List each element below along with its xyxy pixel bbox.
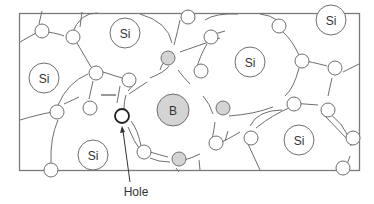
silicon-atom: Si [316,5,346,35]
electron [194,64,208,78]
silicon-atom: Si [235,47,265,77]
electron [209,136,223,150]
hole-arrow [120,126,130,182]
electron [181,10,195,24]
boron-electron [216,101,230,115]
electron [328,61,342,75]
silicon-atom: Si [29,63,59,93]
silicon-atom: Si [78,140,108,170]
boron-electron [161,51,175,65]
electron [272,19,286,33]
electron [89,66,103,80]
electron [66,30,80,44]
electron [346,131,360,145]
electron [44,163,58,177]
silicon-lattice-diagram: Si Si Si Si Si Si B [0,0,374,204]
electron [287,97,301,111]
boron-electron [172,152,186,166]
silicon-atom: Si [110,18,140,48]
electron [321,103,335,117]
electron [204,30,218,44]
svg-text:Si: Si [245,56,256,70]
electron [137,145,151,159]
electron [83,101,97,115]
electron [35,24,49,38]
silicon-atom: Si [284,125,314,155]
boron-atom: B [157,94,189,126]
hole-label: Hole [124,185,149,199]
svg-text:Si: Si [294,134,305,148]
svg-text:Si: Si [326,14,337,28]
electron [122,73,136,87]
svg-text:Si: Si [88,149,99,163]
svg-text:Si: Si [120,27,131,41]
electron [295,54,309,68]
electron [244,131,258,145]
svg-text:B: B [169,104,177,118]
hole-marker [115,109,129,123]
electron [50,105,64,119]
svg-text:Si: Si [39,72,50,86]
electron [336,161,350,175]
